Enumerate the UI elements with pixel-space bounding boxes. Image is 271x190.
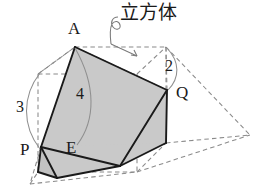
callout-label-cube: 立方体 bbox=[120, 3, 177, 22]
vertex-label-E: E bbox=[66, 139, 76, 156]
cube-edge-depth-top-right bbox=[137, 47, 166, 74]
vertex-label-P: P bbox=[20, 141, 29, 158]
callout-arrow-stem bbox=[111, 44, 137, 56]
extension-midright-to-apex bbox=[166, 135, 250, 143]
vertex-label-Q: Q bbox=[176, 84, 188, 101]
measure-label-3: 3 bbox=[16, 99, 24, 115]
measure-label-2: 2 bbox=[165, 58, 173, 74]
callout-arrow-head bbox=[131, 50, 137, 56]
extension-lowerleft-front bbox=[30, 172, 38, 184]
vertex-label-A: A bbox=[68, 20, 80, 37]
lower-wedge bbox=[38, 143, 166, 178]
figure-canvas bbox=[0, 0, 271, 190]
edge-Q-down bbox=[166, 90, 167, 143]
lower-wedge-fill bbox=[41, 143, 166, 178]
measure-label-4: 4 bbox=[76, 86, 84, 102]
callout-hook-curve bbox=[110, 17, 120, 44]
geometry-figure: A Q P E 3 4 2 立方体 bbox=[0, 0, 271, 190]
